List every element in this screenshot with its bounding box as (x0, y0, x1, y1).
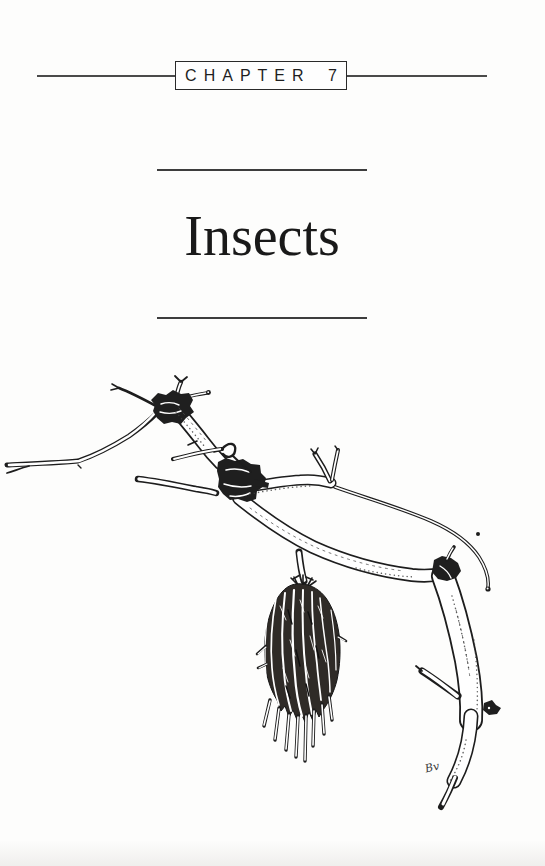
twig-straight (138, 479, 216, 493)
knot-cluster-upper (111, 376, 211, 424)
book-page: CHAPTER 7 Insects (0, 0, 545, 866)
page-edge-shading (0, 840, 545, 866)
left-twig (7, 412, 158, 473)
branch-illustration: Bv (0, 0, 545, 866)
artist-monogram: Bv (423, 759, 442, 776)
bagworm-case (257, 552, 346, 761)
main-branch (239, 480, 441, 576)
